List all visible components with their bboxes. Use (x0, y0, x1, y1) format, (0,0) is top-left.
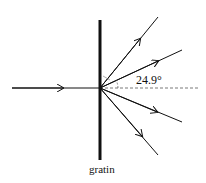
diffracted-ray-lower-outer-arrow (100, 88, 142, 136)
angle-label: 24.9° (136, 73, 162, 87)
diffracted-ray-lower-inner-arrow (100, 88, 157, 112)
angle-arc (116, 80, 118, 88)
grating-label: gratin (89, 163, 115, 175)
diffracted-ray-upper-outer-arrow (100, 39, 140, 88)
grating-diagram: 24.9° gratin (0, 0, 206, 183)
